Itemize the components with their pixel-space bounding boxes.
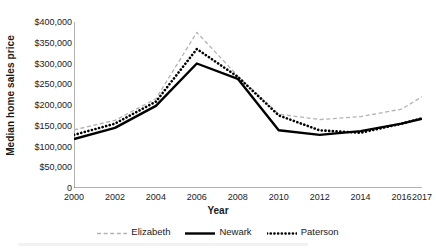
line-chart: Median home sales price $400,000$350,000… bbox=[0, 0, 436, 249]
legend-item-newark[interactable]: Newark bbox=[185, 226, 251, 237]
legend-label-paterson: Paterson bbox=[301, 226, 339, 237]
x-axis-title: Year bbox=[0, 205, 436, 216]
chart-legend: ElizabethNewarkPaterson bbox=[0, 226, 436, 237]
legend-item-paterson[interactable]: Paterson bbox=[267, 226, 339, 237]
legend-label-newark: Newark bbox=[219, 226, 251, 237]
x-axis-tick-label: 2014 bbox=[351, 192, 371, 202]
legend-swatch-newark bbox=[185, 228, 215, 235]
x-axis-tick-label: 2016 bbox=[392, 192, 412, 202]
page-edge-artifact bbox=[18, 243, 308, 246]
x-axis-tick-label: 2002 bbox=[105, 192, 125, 202]
legend-label-elizabeth: Elizabeth bbox=[131, 226, 170, 237]
legend-swatch-elizabeth bbox=[97, 228, 127, 235]
x-axis-tick-label: 2012 bbox=[310, 192, 330, 202]
x-axis-tick-label: 2017 bbox=[412, 192, 432, 202]
x-axis-tick-label: 2006 bbox=[187, 192, 207, 202]
x-axis-tick-label: 2004 bbox=[146, 192, 166, 202]
x-axis-tick-label: 2008 bbox=[228, 192, 248, 202]
legend-swatch-paterson bbox=[267, 228, 297, 235]
legend-item-elizabeth[interactable]: Elizabeth bbox=[97, 226, 170, 237]
x-axis-tick-label: 2010 bbox=[269, 192, 289, 202]
x-axis-tick-label: 2000 bbox=[64, 192, 84, 202]
